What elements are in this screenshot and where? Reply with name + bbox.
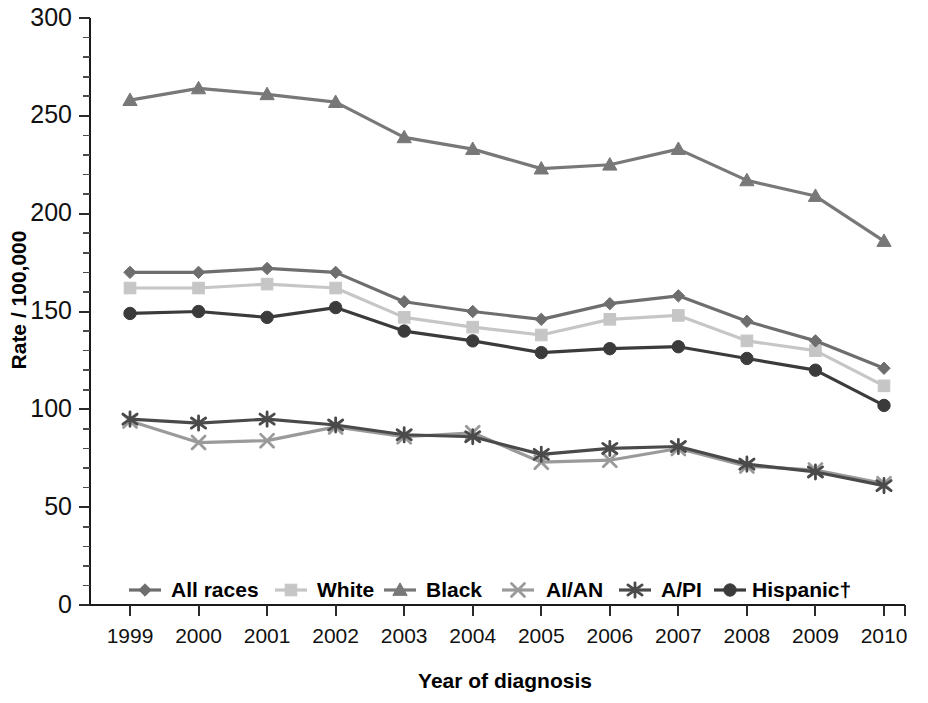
square-marker (741, 335, 753, 347)
legend-label: White (317, 578, 374, 601)
marker-circle-2007 (672, 341, 684, 353)
marker-circle-2000 (192, 305, 204, 317)
circle-marker (124, 307, 136, 319)
marker-square-2000 (193, 282, 205, 294)
y-tick-label: 300 (30, 3, 72, 31)
x-tick-label: 2006 (586, 624, 633, 647)
diamond-marker (329, 266, 341, 278)
y-tick-label: 50 (44, 492, 72, 520)
circle-marker (809, 364, 821, 376)
marker-circle-1999 (124, 307, 136, 319)
circle-marker (878, 399, 890, 411)
y-tick-label: 100 (30, 394, 72, 422)
marker-circle-2005 (535, 346, 547, 358)
diamond-marker (878, 362, 890, 374)
marker-circle-2008 (741, 352, 753, 364)
marker-square-2008 (741, 335, 753, 347)
series-line (130, 88, 884, 241)
marker-diamond-2002 (329, 266, 341, 278)
diamond-marker (192, 266, 204, 278)
square-marker (124, 282, 136, 294)
x-tick-label: 2003 (381, 624, 428, 647)
series-api (123, 412, 891, 493)
marker-circle-2009 (809, 364, 821, 376)
diamond-marker (535, 313, 547, 325)
data-series-group (123, 81, 891, 492)
diamond-marker (741, 315, 753, 327)
marker-square-2002 (330, 282, 342, 294)
square-marker (467, 321, 479, 333)
y-tick-label: 150 (30, 296, 72, 324)
y-axis-title: Rate / 100,000 (7, 231, 30, 370)
marker-circle-2003 (398, 325, 410, 337)
marker-square-1999 (124, 282, 136, 294)
x-tick-label: 2002 (312, 624, 359, 647)
marker-circle-2002 (329, 301, 341, 313)
circle-marker (724, 584, 736, 596)
marker-square-2006 (604, 314, 616, 326)
marker-diamond-2007 (672, 290, 684, 302)
marker-diamond-2000 (192, 266, 204, 278)
marker-square-2003 (398, 312, 410, 324)
square-marker (193, 282, 205, 294)
legend-item-white[interactable]: White (275, 578, 374, 601)
square-marker (535, 329, 547, 341)
y-tick-label: 200 (30, 198, 72, 226)
series-line (130, 308, 884, 406)
diamond-marker (672, 290, 684, 302)
marker-diamond-2001 (261, 262, 273, 274)
circle-marker (672, 341, 684, 353)
marker-diamond-2008 (741, 315, 753, 327)
marker-circle-2001 (261, 311, 273, 323)
legend-item-api[interactable]: A/PI (619, 578, 702, 601)
diamond-marker (398, 296, 410, 308)
square-marker (604, 314, 616, 326)
marker-diamond-2010 (878, 362, 890, 374)
marker-square-legend (285, 584, 297, 596)
x-tick-label: 2010 (861, 624, 908, 647)
diamond-marker (467, 305, 479, 317)
legend-label: A/PI (661, 578, 702, 601)
marker-diamond-legend (139, 584, 151, 596)
x-tick-label: 2001 (244, 624, 291, 647)
triangle-marker (671, 142, 685, 154)
circle-marker (535, 346, 547, 358)
square-marker (673, 310, 685, 322)
legend-item-black[interactable]: Black (384, 578, 482, 601)
circle-marker (261, 311, 273, 323)
marker-triangle-2010 (877, 234, 891, 246)
x-tick-label: 2004 (449, 624, 496, 647)
y-axis: 050100150200250300 (30, 3, 90, 618)
series-line (130, 421, 884, 484)
legend-item-aian[interactable]: AI/AN (502, 578, 603, 601)
x-axis-title: Year of diagnosis (418, 669, 592, 692)
marker-square-2005 (535, 329, 547, 341)
marker-diamond-2004 (467, 305, 479, 317)
y-tick-label: 0 (58, 590, 72, 618)
legend-item-allraces[interactable]: All races (129, 578, 259, 601)
legend-item-hispanic[interactable]: Hispanic† (714, 578, 851, 601)
diamond-marker (124, 266, 136, 278)
marker-square-2001 (261, 278, 273, 290)
series-allraces (124, 262, 890, 374)
y-tick-label: 250 (30, 100, 72, 128)
marker-triangle-2007 (671, 142, 685, 154)
legend-label: AI/AN (546, 578, 603, 601)
marker-circle-2004 (467, 335, 479, 347)
circle-marker (604, 342, 616, 354)
square-marker (398, 312, 410, 324)
square-marker (261, 278, 273, 290)
square-marker (330, 282, 342, 294)
marker-square-2004 (467, 321, 479, 333)
legend-label: Hispanic† (752, 578, 851, 601)
chart-legend: All racesWhiteBlackAI/ANA/PIHispanic† (129, 578, 851, 601)
x-axis: 1999200020012002200320042005200620072008… (90, 605, 907, 647)
marker-square-2007 (673, 310, 685, 322)
x-tick-label: 2005 (518, 624, 565, 647)
marker-circle-2010 (878, 399, 890, 411)
x-tick-label: 2008 (724, 624, 771, 647)
x-tick-label: 2009 (792, 624, 839, 647)
marker-diamond-2006 (604, 297, 616, 309)
marker-diamond-2003 (398, 296, 410, 308)
series-line (130, 268, 884, 368)
